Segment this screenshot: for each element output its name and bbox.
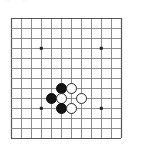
diagram-root: ◌ ◌ — [0, 0, 143, 155]
white-stone[interactable] — [66, 83, 77, 94]
black-stone[interactable] — [56, 103, 67, 114]
white-stone[interactable] — [56, 93, 67, 104]
star-point — [100, 107, 103, 110]
star-point — [100, 47, 103, 50]
star-point — [40, 107, 43, 110]
white-stone[interactable] — [66, 103, 77, 114]
go-board[interactable] — [0, 0, 143, 155]
star-point — [40, 47, 43, 50]
go-board-grid — [0, 0, 143, 155]
black-stone[interactable] — [56, 83, 67, 94]
black-stone[interactable] — [46, 93, 57, 104]
white-stone[interactable] — [76, 93, 87, 104]
